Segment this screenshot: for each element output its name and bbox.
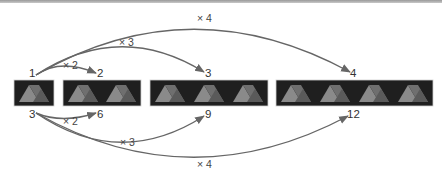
top-label-4: 4 [350, 67, 357, 79]
bottom-label-12: 12 [347, 108, 360, 120]
bottom-mult-x4: × 4 [197, 158, 212, 170]
arrow-3-to-12 [36, 113, 348, 157]
bottom-mult-x2: × 2 [63, 115, 78, 127]
top-label-2: 2 [97, 67, 103, 79]
top-label-1: 1 [29, 67, 35, 79]
top-mult-x3: × 3 [119, 36, 134, 48]
bottom-label-6: 6 [97, 108, 103, 120]
bottom-arrows [36, 113, 348, 157]
box-2 [63, 80, 141, 106]
top-mult-x4: × 4 [197, 12, 212, 24]
box-4 [276, 80, 433, 106]
box-3 [150, 80, 268, 106]
bottom-label-3: 3 [29, 108, 35, 120]
top-label-3: 3 [205, 67, 211, 79]
multiplication-diagram: 1 2 3 4 3 6 9 12 × 2 × 3 × 4 × 2 × 3 × 4 [0, 0, 442, 178]
box-1 [14, 80, 54, 106]
bottom-label-9: 9 [205, 108, 211, 120]
bottom-mult-x3: × 3 [120, 136, 135, 148]
top-mult-x2: × 2 [63, 59, 78, 71]
top-arrows [36, 29, 350, 75]
